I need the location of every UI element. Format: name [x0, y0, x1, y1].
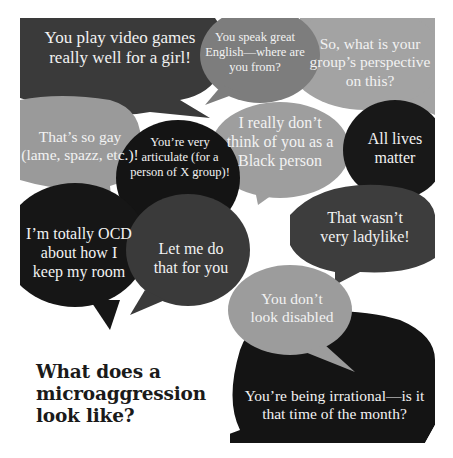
bubble-let-me-do: Let me do that for you — [136, 240, 246, 278]
bubble-video-games: You play video games really well for a g… — [20, 28, 220, 68]
bubble-black-person: I really don’t think of you as a Black p… — [210, 114, 350, 171]
bubble-ladylike: That wasn’t very ladylike! — [300, 209, 430, 247]
bubble-group-perspective: So, what is your group’s perspective on … — [305, 35, 435, 90]
bubble-all-lives: All lives matter — [352, 130, 438, 168]
bubble-irrational: You’re being irrational—is it that time … — [232, 387, 437, 424]
bubble-ocd: I’m totally OCD about how I keep my room — [14, 225, 144, 282]
bubble-speak-english: You speak great English—where are you fr… — [200, 30, 310, 74]
bubble-disabled: You don’t look disabled — [232, 290, 352, 327]
page-title: What does a microaggression look like? — [36, 361, 226, 426]
microaggression-infographic: You play video games really well for a g… — [0, 0, 453, 458]
